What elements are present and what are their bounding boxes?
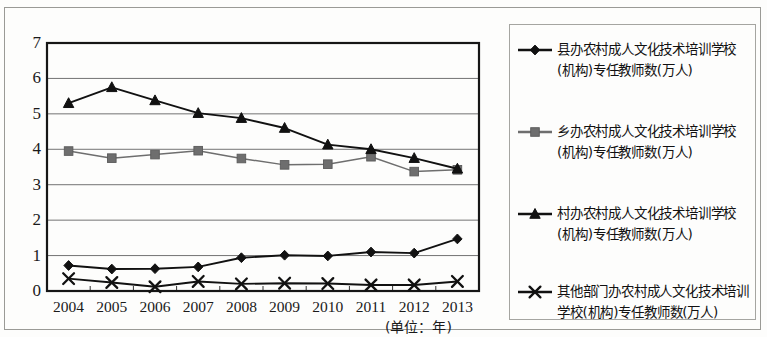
y-axis-tick-label: 0	[15, 282, 41, 299]
y-axis-tick-label: 6	[15, 69, 41, 86]
x-axis-tick-label: 2005	[89, 299, 135, 315]
x-axis-tick-label: 2010	[305, 299, 351, 315]
x-axis-tick-label: 2004	[46, 299, 92, 315]
x-axis-tick-label: 2013	[434, 299, 480, 315]
legend-item[interactable]: 乡办农村成人文化技术培训学校(机构)专任教师数(万人)	[516, 121, 753, 163]
chart-canvas	[5, 8, 505, 329]
x-axis-tick-label: 2008	[218, 299, 264, 315]
legend-item[interactable]: 县办农村成人文化技术培训学校(机构)专任教师数(万人)	[516, 39, 753, 81]
chart-figure: 0123456720042005200620072008200920102011…	[4, 7, 761, 330]
diamond-marker	[516, 41, 554, 59]
y-axis-tick-label: 5	[15, 105, 41, 122]
y-axis-tick-label: 3	[15, 176, 41, 193]
legend-item-label: 县办农村成人文化技术培训学校(机构)专任教师数(万人)	[557, 39, 753, 81]
legend-item-label: 乡办农村成人文化技术培训学校(机构)专任教师数(万人)	[557, 121, 753, 163]
square-marker	[516, 123, 554, 141]
y-axis-tick-label: 7	[15, 34, 41, 51]
x-axis-unit-note: (单位：年)	[385, 316, 452, 336]
x-axis-tick-label: 2011	[348, 299, 394, 315]
legend-item[interactable]: 其他部门办农村成人文化技术培训学校(机构)专任教师数(万人)	[516, 281, 753, 323]
x-axis-tick-label: 2007	[175, 299, 221, 315]
y-axis-tick-label: 4	[15, 140, 41, 157]
x-axis-tick-label: 2006	[132, 299, 178, 315]
legend-item-label: 村办农村成人文化技术培训学校(机构)专任教师数(万人)	[557, 203, 753, 245]
plot-area: 0123456720042005200620072008200920102011…	[5, 8, 505, 329]
series-markers-0	[64, 234, 462, 274]
legend-item-label: 其他部门办农村成人文化技术培训学校(机构)专任教师数(万人)	[557, 281, 753, 323]
chart-legend: 县办农村成人文化技术培训学校(机构)专任教师数(万人)乡办农村成人文化技术培训学…	[509, 24, 756, 320]
legend-item[interactable]: 村办农村成人文化技术培训学校(机构)专任教师数(万人)	[516, 203, 753, 245]
series-markers-2	[63, 82, 462, 173]
y-axis-tick-label: 2	[15, 211, 41, 228]
triangle-marker	[516, 205, 554, 223]
y-axis-tick-label: 1	[15, 247, 41, 264]
x-axis-tick-label: 2009	[262, 299, 308, 315]
x-axis-tick-label: 2012	[391, 299, 437, 315]
cross-marker	[516, 283, 554, 301]
